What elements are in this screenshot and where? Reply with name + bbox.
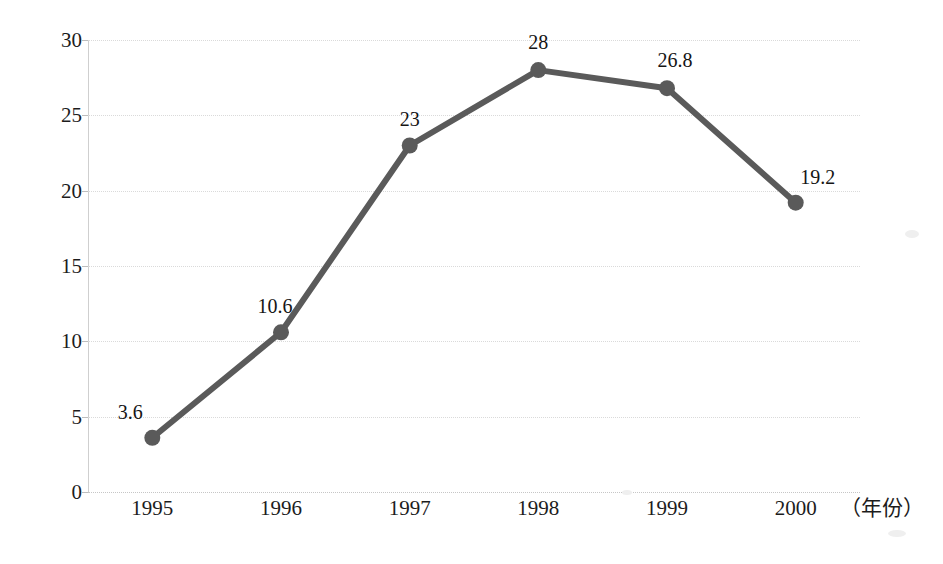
data-point-value-label: 28 — [528, 32, 548, 52]
data-point-value-label: 19.2 — [800, 167, 835, 187]
scan-artifact — [622, 490, 632, 495]
y-axis-tick-mark — [82, 341, 88, 342]
y-axis-tick-label: 0 — [36, 482, 82, 503]
gridline — [88, 492, 860, 493]
y-axis-tick-mark — [82, 417, 88, 418]
y-axis-tick-label: 20 — [36, 180, 82, 201]
y-axis-tick-mark — [82, 40, 88, 41]
x-axis-tick-label: 1998 — [517, 498, 559, 519]
y-axis-tick-label: 30 — [36, 30, 82, 51]
x-axis-tick-label: 1999 — [646, 498, 688, 519]
y-axis-tick-label: 5 — [36, 406, 82, 427]
gridline — [88, 191, 860, 192]
scan-artifact — [905, 230, 919, 238]
gridline — [88, 266, 860, 267]
data-point-value-label: 3.6 — [118, 402, 143, 422]
data-point-value-label: 10.6 — [258, 296, 293, 316]
gridline — [88, 115, 860, 116]
gridline — [88, 341, 860, 342]
data-point-value-label: 26.8 — [658, 50, 693, 70]
plot-area — [88, 40, 860, 492]
scan-artifact — [888, 530, 906, 537]
line-chart: 051015202530 3.610.6232826.819.2 1995199… — [0, 0, 943, 564]
y-axis-tick-mark — [82, 266, 88, 267]
y-axis-tick-mark — [82, 492, 88, 493]
x-axis-tick-label: 1996 — [260, 498, 302, 519]
x-axis-tick-label: 1995 — [131, 498, 173, 519]
y-axis-tick-mark — [82, 115, 88, 116]
gridline — [88, 40, 860, 41]
y-axis-tick-label: 25 — [36, 105, 82, 126]
x-axis-tick-labels: 199519961997199819992000 — [88, 498, 860, 532]
x-axis-tick-label: 1997 — [389, 498, 431, 519]
x-axis-tick-label: 2000 — [775, 498, 817, 519]
y-axis-tick-labels: 051015202530 — [24, 40, 82, 492]
gridline — [88, 417, 860, 418]
y-axis-tick-label: 15 — [36, 256, 82, 277]
x-axis-caption: （年份） — [840, 498, 924, 519]
y-axis-tick-mark — [82, 191, 88, 192]
data-point-value-label: 23 — [400, 109, 420, 129]
y-axis-tick-label: 10 — [36, 331, 82, 352]
